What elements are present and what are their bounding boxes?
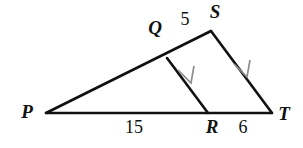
geometry-canvas: P S T Q R 5 15 6: [0, 0, 303, 148]
vertex-label-Q: Q: [148, 17, 162, 38]
measure-label-QS: 5: [181, 9, 190, 29]
vertex-label-T: T: [278, 103, 291, 124]
vertex-label-R: R: [205, 116, 219, 137]
geometry-figure: P S T Q R 5 15 6: [0, 0, 303, 148]
segment-QR: [167, 58, 208, 113]
measure-label-PR: 15: [125, 117, 143, 137]
measure-label-RT: 6: [239, 117, 248, 137]
vertex-label-P: P: [20, 101, 33, 122]
segment-PS: [46, 31, 211, 113]
vertex-label-S: S: [210, 1, 221, 22]
